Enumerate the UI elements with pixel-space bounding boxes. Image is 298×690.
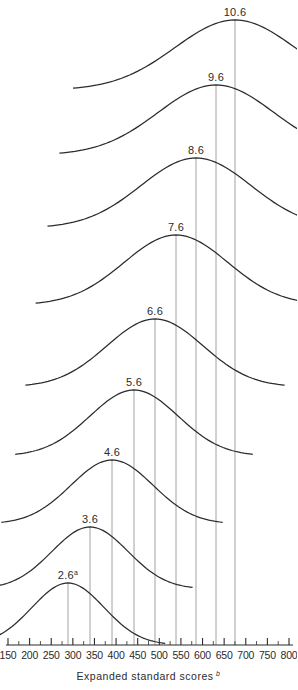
distribution-curve-9-6 xyxy=(59,85,297,153)
x-tick-label-500: 500 xyxy=(151,649,168,661)
x-tick-label-300: 300 xyxy=(64,649,81,661)
x-tick-label-250: 250 xyxy=(43,649,60,661)
x-tick-labels-group: 1502002503003504004505005506006507007508… xyxy=(0,649,297,661)
distribution-curve-10-6 xyxy=(73,20,297,88)
distribution-curve-8-6 xyxy=(48,158,298,226)
x-tick-label-600: 600 xyxy=(194,649,211,661)
curve-label-2-6: 2.6a xyxy=(58,569,78,581)
x-tick-label-200: 200 xyxy=(21,649,38,661)
x-axis-title: Expanded standard scores b xyxy=(77,670,221,682)
curve-label-10-6: 10.6 xyxy=(224,6,247,18)
distribution-curve-2-6 xyxy=(0,583,165,643)
x-tick-label-750: 750 xyxy=(259,649,276,661)
chart-canvas: 2.6a3.64.65.66.67.68.69.610.6 1502002503… xyxy=(0,0,297,690)
curves-group xyxy=(0,20,297,643)
curve-label-9-6: 9.6 xyxy=(208,71,224,83)
x-axis-title-group: Expanded standard scores b xyxy=(77,670,221,682)
curve-label-8-6: 8.6 xyxy=(188,144,204,156)
x-tick-label-650: 650 xyxy=(216,649,233,661)
x-tick-label-400: 400 xyxy=(108,649,125,661)
x-tick-label-550: 550 xyxy=(172,649,189,661)
curve-label-7-6: 7.6 xyxy=(168,221,184,233)
distribution-curve-7-6 xyxy=(36,235,297,303)
distribution-curve-3-6 xyxy=(0,527,193,587)
distribution-chart: 2.6a3.64.65.66.67.68.69.610.6 1502002503… xyxy=(0,0,297,690)
curve-label-3-6: 3.6 xyxy=(82,513,98,525)
curve-label-5-6: 5.6 xyxy=(126,376,142,388)
x-tick-label-350: 350 xyxy=(86,649,103,661)
peak-lines-group xyxy=(68,20,235,645)
curve-label-4-6: 4.6 xyxy=(104,446,120,458)
x-tick-label-800: 800 xyxy=(281,649,297,661)
x-axis-group xyxy=(6,638,293,645)
x-tick-label-450: 450 xyxy=(129,649,146,661)
curve-label-6-6: 6.6 xyxy=(147,305,163,317)
curve-labels-group: 2.6a3.64.65.66.67.68.69.610.6 xyxy=(58,6,247,581)
x-tick-label-700: 700 xyxy=(237,649,254,661)
x-tick-label-150: 150 xyxy=(0,649,17,661)
